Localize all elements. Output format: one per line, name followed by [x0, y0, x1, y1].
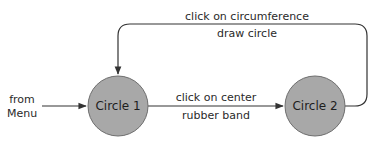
edge-2-action-label: draw circle: [217, 27, 277, 40]
node-circle2-label: Circle 2: [292, 99, 337, 113]
edge-2-event-label: click on circumference: [185, 10, 309, 23]
edge-1-action-label: rubber band: [182, 109, 250, 122]
entry-label-line1: from: [9, 93, 35, 106]
edge-1-event-label: click on center: [176, 91, 257, 104]
entry-label-line2: Menu: [7, 107, 37, 120]
node-circle1-label: Circle 1: [95, 99, 140, 113]
